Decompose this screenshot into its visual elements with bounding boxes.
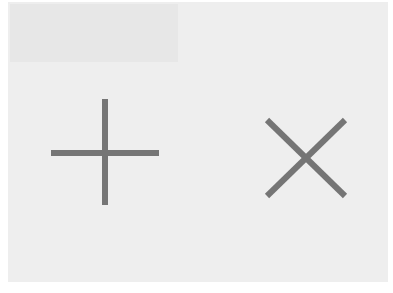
close-icon[interactable]: Close — [262, 115, 350, 201]
card-shade — [10, 4, 178, 62]
close-icon-svg — [262, 115, 350, 201]
plus-icon-svg — [48, 96, 162, 208]
plus-icon[interactable]: Add — [48, 96, 162, 208]
